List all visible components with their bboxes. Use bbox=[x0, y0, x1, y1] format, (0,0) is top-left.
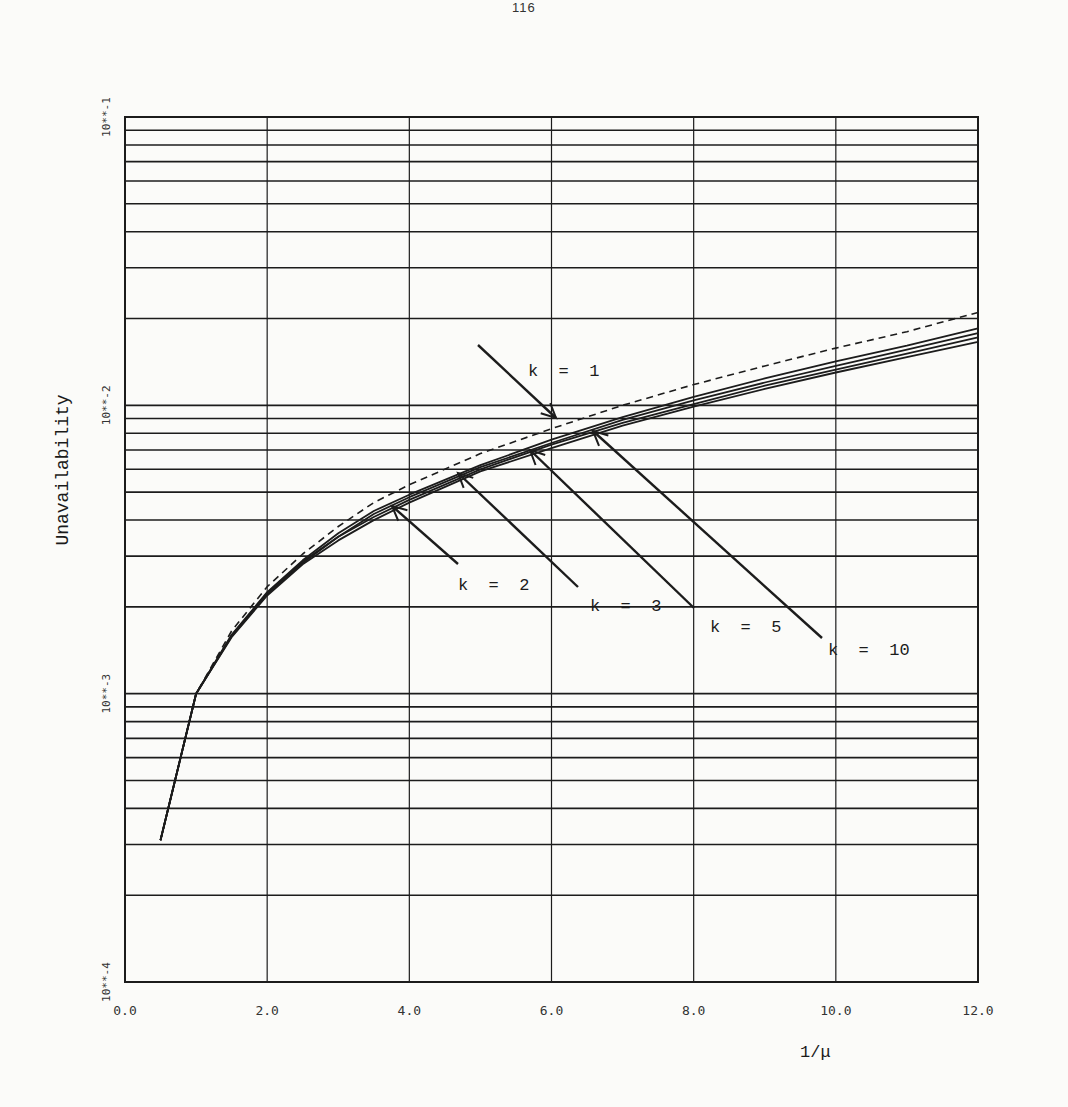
x-tick-label: 8.0 bbox=[682, 1003, 705, 1018]
y-axis-ticks: 10**-410**-310**-210**-1 bbox=[100, 97, 113, 1002]
svg-text:k = 10: k = 10 bbox=[828, 641, 910, 660]
curve-k1 bbox=[161, 312, 979, 840]
y-tick-label: 10**-4 bbox=[100, 962, 113, 1002]
y-axis-label: Unavailability bbox=[53, 394, 73, 545]
y-tick-label: 10**-2 bbox=[100, 385, 113, 425]
x-tick-label: 6.0 bbox=[540, 1003, 563, 1018]
curve-annotations: k = 1k = 2k = 3k = 5k = 10 bbox=[392, 345, 910, 660]
x-tick-label: 0.0 bbox=[113, 1003, 136, 1018]
x-tick-label: 10.0 bbox=[820, 1003, 851, 1018]
x-axis-ticks: 0.02.04.06.08.010.012.0 bbox=[113, 1003, 993, 1018]
x-tick-label: 4.0 bbox=[398, 1003, 421, 1018]
curve-k10 bbox=[161, 342, 979, 840]
x-axis-label: 1/μ bbox=[800, 1043, 831, 1062]
curve-k3 bbox=[161, 333, 979, 840]
svg-text:k = 2: k = 2 bbox=[458, 576, 529, 595]
y-tick-label: 10**-3 bbox=[100, 674, 113, 714]
grid-lines bbox=[125, 117, 978, 982]
x-tick-label: 12.0 bbox=[962, 1003, 993, 1018]
svg-text:k = 3: k = 3 bbox=[590, 597, 661, 616]
y-tick-label: 10**-1 bbox=[100, 97, 113, 137]
annotation-k1: k = 1 bbox=[478, 345, 599, 418]
svg-text:k = 5: k = 5 bbox=[710, 618, 781, 637]
svg-text:k = 1: k = 1 bbox=[528, 362, 599, 381]
data-curves bbox=[161, 312, 979, 840]
x-tick-label: 2.0 bbox=[255, 1003, 278, 1018]
curve-k5 bbox=[161, 337, 979, 840]
unavailability-chart: k = 1k = 2k = 3k = 5k = 10 0.02.04.06.08… bbox=[0, 0, 1068, 1107]
